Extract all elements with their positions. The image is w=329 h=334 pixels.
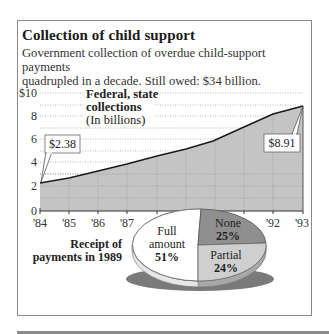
- y-label-2: 2: [31, 179, 37, 193]
- area-title-line-1: Federal, state: [86, 87, 159, 101]
- pie-title-line-1: Receipt of: [70, 237, 123, 251]
- x-label-84: '84: [33, 216, 47, 230]
- area-unit: (In billions): [86, 113, 145, 127]
- callout-start-label: $2.38: [49, 137, 76, 151]
- pie-title: Receipt of payments in 1989: [33, 237, 123, 264]
- x-label-93: '93: [295, 216, 309, 230]
- callout-start: $2.38: [41, 135, 80, 182]
- y-axis-labels: $10 8 6 4 2 0: [19, 86, 37, 218]
- y-label-6: 6: [31, 132, 37, 146]
- x-label-86: '86: [91, 216, 105, 230]
- chart-canvas: $10 8 6 4 2 0 '84 '85 '86 '87 '92 '93 Fe…: [0, 0, 329, 334]
- pie-title-line-2: payments in 1989: [33, 250, 122, 264]
- callout-end-label: $8.91: [269, 136, 296, 150]
- pie-label-full-1: Full: [157, 224, 177, 238]
- pie-label-full-2: amount: [149, 237, 186, 251]
- x-label-92: '92: [266, 216, 280, 230]
- pie-label-none-pct: 25%: [216, 229, 240, 243]
- x-label-87: '87: [120, 216, 134, 230]
- y-label-10: $10: [19, 86, 37, 100]
- pie-label-full-pct: 51%: [155, 250, 179, 264]
- y-label-8: 8: [31, 109, 37, 123]
- pie-label-partial-pct: 24%: [214, 261, 238, 275]
- pie-label-partial: Partial: [210, 248, 242, 262]
- collections-area: [40, 106, 303, 211]
- pie-label-none: None: [215, 216, 241, 230]
- y-label-4: 4: [31, 155, 37, 169]
- x-label-85: '85: [62, 216, 76, 230]
- area-title-line-2: collections: [86, 100, 142, 114]
